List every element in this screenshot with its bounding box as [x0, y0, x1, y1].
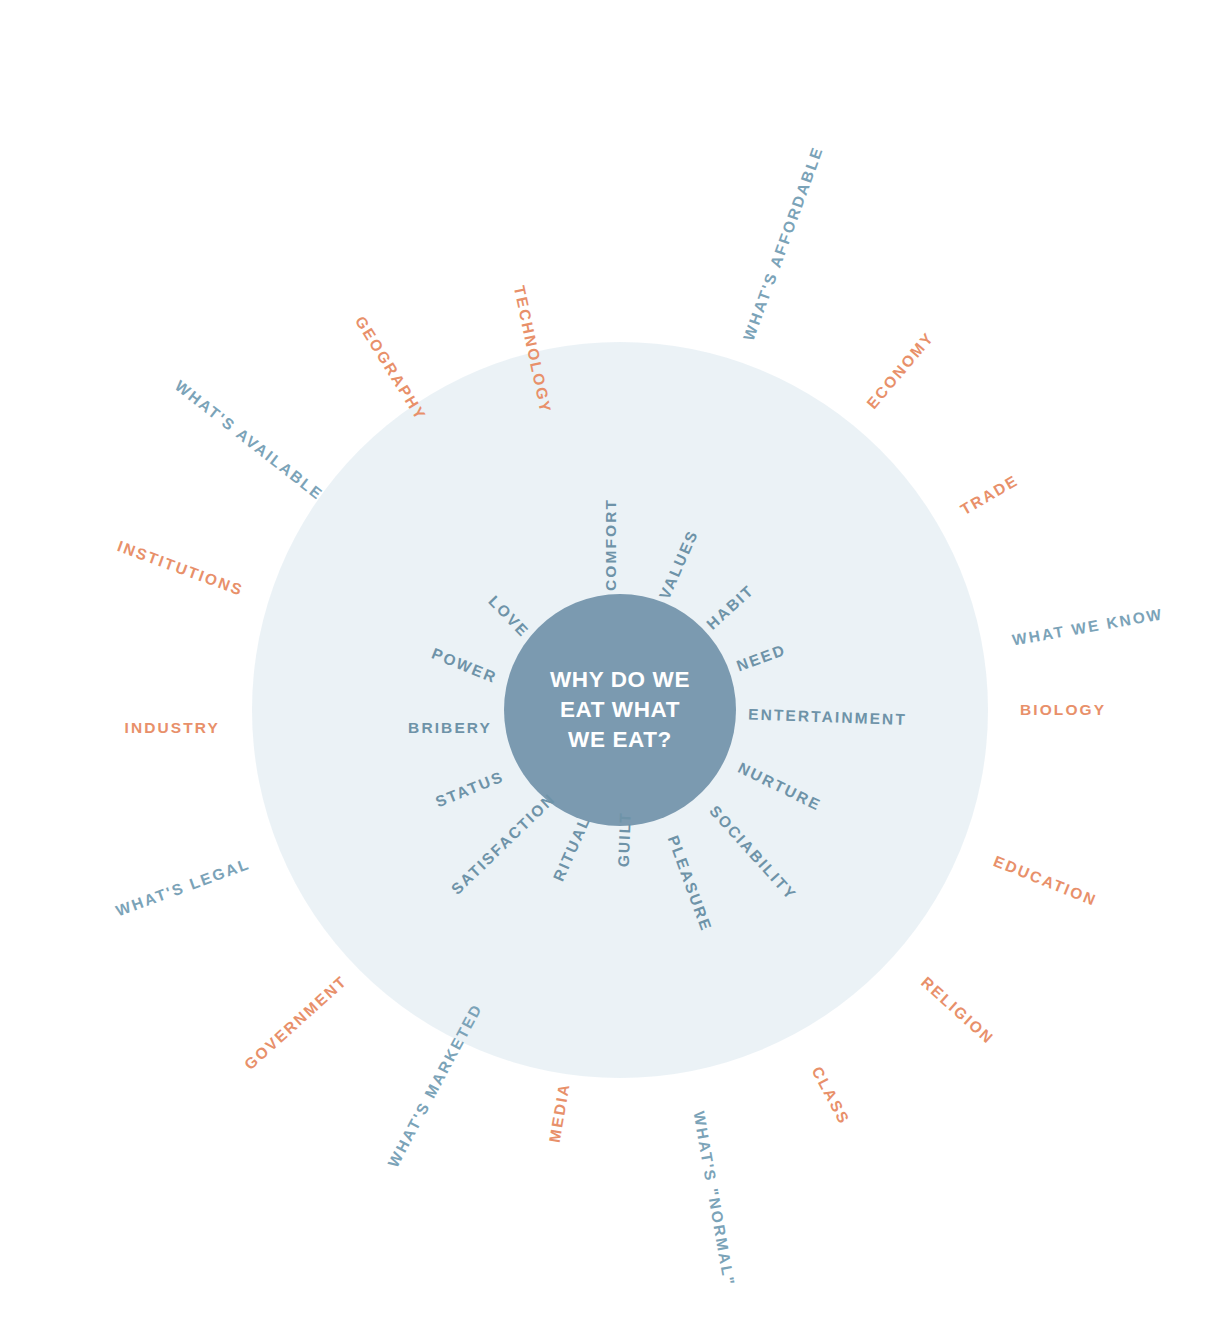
outer-word-label: INDUSTRY [125, 719, 220, 737]
word-wheel-diagram: WHY DO WE EAT WHAT WE EAT? COMFORTVALUES… [0, 0, 1209, 1344]
outer-word-label: WHAT'S AFFORDABLE [740, 144, 827, 343]
outer-word-label: RELIGION [917, 973, 997, 1048]
outer-word-label: GOVERNMENT [241, 972, 351, 1074]
outer-word-label: WHAT'S LEGAL [113, 855, 252, 920]
center-hub: WHY DO WE EAT WHAT WE EAT? [504, 594, 736, 826]
outer-word-label: WHAT'S AVAILABLE [171, 377, 326, 504]
center-hub-label: WHY DO WE EAT WHAT WE EAT? [550, 665, 690, 754]
outer-word-label: MEDIA [546, 1081, 574, 1144]
inner-word-label: BRIBERY [408, 719, 492, 737]
outer-word-label: GEOGRAPHY [351, 313, 430, 424]
outer-word-label: TRADE [957, 471, 1021, 519]
outer-word-label: EDUCATION [991, 852, 1100, 910]
outer-word-label: CLASS [808, 1064, 853, 1128]
outer-word-label: BIOLOGY [1020, 701, 1106, 719]
outer-word-label: WHAT WE KNOW [1011, 605, 1165, 649]
outer-word-label: WHAT'S "NORMAL" [689, 1110, 738, 1288]
outer-word-label: ECONOMY [863, 328, 938, 412]
outer-word-label: INSTITUTIONS [115, 537, 246, 599]
inner-word-label: GUILT [615, 811, 635, 867]
inner-word-label: COMFORT [602, 498, 620, 591]
